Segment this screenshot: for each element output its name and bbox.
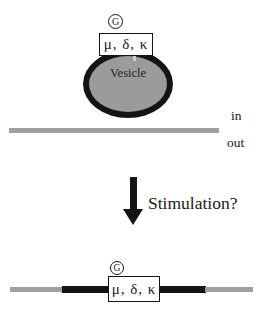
arrow-head-icon — [123, 209, 143, 225]
g-protein-label-bottom: G — [114, 263, 121, 273]
receptor-label-bottom: μ, δ, κ — [112, 281, 157, 298]
figure-canvas: Vesicle μ, δ, κ G in out Stimulation? G … — [0, 0, 267, 310]
g-protein-label-top: G — [112, 16, 119, 27]
receptor-box-bottom: μ, δ, κ — [108, 276, 160, 302]
plasma-membrane-top — [9, 128, 219, 133]
vesicle-label: Vesicle — [83, 66, 173, 81]
arrow-shaft — [130, 177, 137, 210]
g-protein-badge-bottom: G — [110, 261, 124, 275]
membrane-in-label: in — [231, 108, 242, 124]
membrane-segment-black-right — [158, 286, 206, 293]
receptor-box-top: μ, δ, κ — [99, 33, 153, 56]
receptor-box-pointer — [133, 56, 136, 61]
membrane-out-label: out — [227, 135, 244, 151]
stimulation-label: Stimulation? — [148, 193, 237, 214]
vesicle-circle — [83, 50, 173, 118]
membrane-segment-black-left — [62, 286, 112, 293]
receptor-label-top: μ, δ, κ — [104, 36, 149, 53]
membrane-segment-gray-right — [205, 287, 253, 292]
membrane-segment-gray-left — [10, 287, 63, 292]
g-protein-badge-top: G — [108, 14, 123, 29]
